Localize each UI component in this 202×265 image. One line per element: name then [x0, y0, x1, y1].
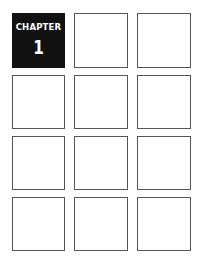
chapter-label: CHAPTER — [16, 23, 62, 32]
empty-frame-r2c3 — [137, 75, 191, 129]
chapter-title-tile: CHAPTER 1 — [12, 13, 65, 68]
empty-frame-r3c3 — [137, 136, 191, 190]
empty-frame-r3c1 — [12, 136, 65, 190]
empty-frame-r4c1 — [12, 197, 65, 251]
empty-frame-r2c1 — [12, 75, 65, 129]
chapter-grid: CHAPTER 1 — [12, 13, 191, 251]
empty-frame-r4c2 — [74, 197, 128, 251]
chapter-number: 1 — [33, 38, 44, 57]
empty-frame-r1c2 — [74, 13, 128, 68]
empty-frame-r3c2 — [74, 136, 128, 190]
empty-frame-r1c3 — [137, 13, 191, 68]
empty-frame-r2c2 — [74, 75, 128, 129]
empty-frame-r4c3 — [137, 197, 191, 251]
